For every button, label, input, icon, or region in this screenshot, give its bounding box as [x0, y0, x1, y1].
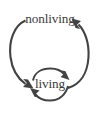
cycle-diagram: nonliving living: [0, 0, 100, 117]
arc-nonliving-to-living: [10, 21, 25, 85]
node-label-nonliving: nonliving: [0, 12, 100, 25]
node-label-living: living: [0, 77, 100, 90]
